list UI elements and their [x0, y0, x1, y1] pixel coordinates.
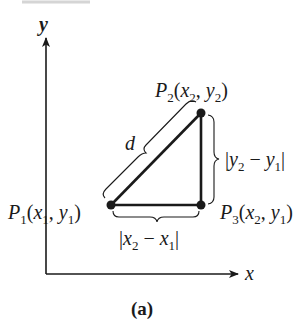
- figure-caption: (a): [131, 298, 153, 320]
- distance-label: d: [125, 132, 136, 154]
- point-p3-label: P3(x2, y1): [219, 201, 293, 227]
- point-p2-dot: [197, 109, 206, 118]
- horizontal-leg-brace: [113, 211, 199, 222]
- distance-formula-diagram: y x d P2(x2, y2) P1(x1, y1) P3(x2, y: [0, 0, 308, 324]
- point-p1-dot: [107, 201, 116, 210]
- vertical-leg-label: |y2 − y1|: [225, 148, 285, 174]
- hypotenuse-segment: [111, 113, 201, 205]
- y-axis-label: y: [37, 13, 48, 36]
- point-p1-label: P1(x1, y1): [7, 201, 81, 227]
- point-p3-dot: [197, 201, 206, 210]
- horizontal-leg-label: |x2 − x1|: [119, 227, 179, 253]
- point-p2-label: P2(x2, y2): [154, 79, 228, 105]
- hypotenuse-brace: [103, 101, 196, 198]
- x-axis-label: x: [244, 262, 254, 284]
- right-triangle: [107, 109, 206, 210]
- vertical-leg-brace: [208, 115, 219, 204]
